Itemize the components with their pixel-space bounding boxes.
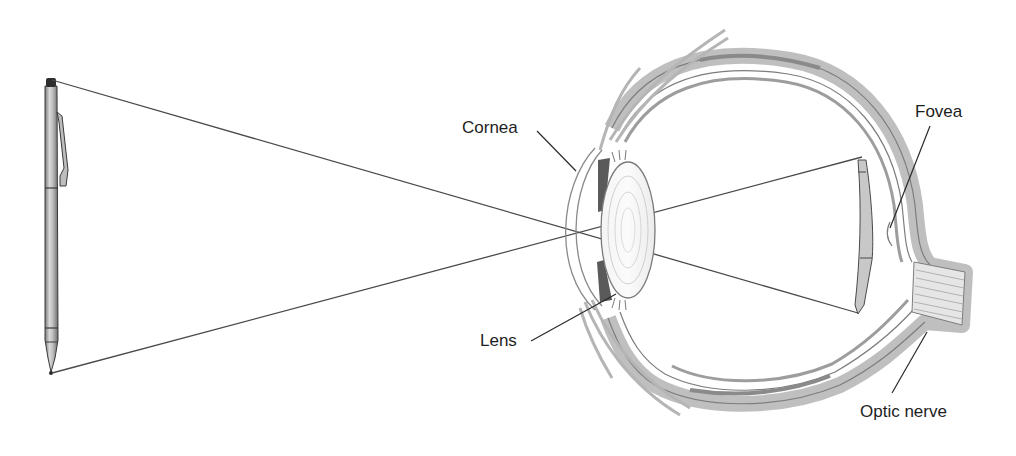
pen-object [45, 78, 68, 375]
cornea-label: Cornea [462, 119, 518, 136]
eye-diagram: Cornea Lens Fovea Optic nerve [0, 0, 1016, 456]
retinal-image [855, 160, 873, 314]
lens-leader [531, 294, 616, 341]
eyeball [566, 30, 965, 415]
ray-bottom [52, 157, 862, 373]
ray-top [52, 80, 858, 313]
lens-label: Lens [480, 332, 517, 349]
fovea-label: Fovea [915, 103, 962, 120]
eye-muscle-top [600, 30, 728, 150]
optic-nerve-shape [912, 262, 965, 325]
light-rays [52, 80, 862, 373]
diagram-canvas [0, 0, 1016, 456]
cornea-leader [537, 131, 576, 171]
optic-nerve-label: Optic nerve [860, 403, 947, 420]
lens-shape [601, 162, 655, 298]
